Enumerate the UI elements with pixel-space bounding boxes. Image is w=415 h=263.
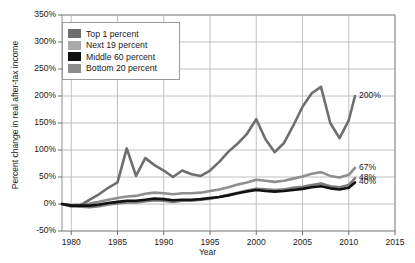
legend-item-label: Next 19 percent bbox=[86, 40, 147, 50]
series-leader-line bbox=[349, 96, 355, 120]
legend-item-label: Bottom 20 percent bbox=[86, 63, 157, 73]
legend-color-swatch-icon bbox=[68, 64, 81, 73]
chart-container: Percent change in real after-tax income … bbox=[0, 0, 415, 263]
chart-legend: Top 1 percentNext 19 percentMiddle 60 pe… bbox=[62, 22, 180, 80]
legend-item[interactable]: Bottom 20 percent bbox=[68, 63, 175, 73]
legend-color-swatch-icon bbox=[68, 29, 81, 38]
legend-item-label: Top 1 percent bbox=[86, 29, 139, 39]
legend-color-swatch-icon bbox=[68, 41, 81, 50]
legend-item[interactable]: Top 1 percent bbox=[68, 29, 175, 39]
series-end-label: 40% bbox=[359, 176, 376, 186]
legend-color-swatch-icon bbox=[68, 52, 81, 61]
legend-item[interactable]: Next 19 percent bbox=[68, 40, 175, 50]
legend-item[interactable]: Middle 60 percent bbox=[68, 52, 175, 62]
legend-item-label: Middle 60 percent bbox=[86, 52, 155, 62]
series-end-label: 67% bbox=[359, 162, 376, 172]
series-leader-line bbox=[349, 168, 355, 175]
series-end-label: 200% bbox=[359, 90, 381, 100]
